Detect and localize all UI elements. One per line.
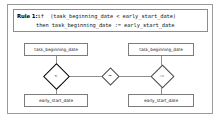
node-task-beginning-date-right[interactable]: task_beginning_date	[128, 43, 194, 56]
operator-implies[interactable]: →	[97, 65, 123, 87]
rule-graph: task_beginning_date task_beginning_date …	[0, 0, 221, 121]
node-label: early_start_date	[39, 98, 73, 103]
operator-symbol: <	[54, 74, 57, 78]
node-label: task_beginning_date	[139, 47, 182, 52]
operator-less-than[interactable]: <	[40, 62, 72, 90]
operator-assign[interactable]: :=	[147, 63, 177, 89]
node-label: task_beginning_date	[34, 47, 77, 52]
node-early-start-date-right[interactable]: early_start_date	[128, 94, 194, 107]
node-label: early_start_date	[144, 98, 178, 103]
operator-symbol: :=	[160, 74, 165, 78]
operator-symbol: →	[108, 74, 111, 78]
node-task-beginning-date-left[interactable]: task_beginning_date	[24, 43, 88, 56]
node-early-start-date-left[interactable]: early_start_date	[24, 94, 88, 107]
rule-diagram-canvas: Rule 1:if (task_beginning_date < early_s…	[0, 0, 221, 121]
